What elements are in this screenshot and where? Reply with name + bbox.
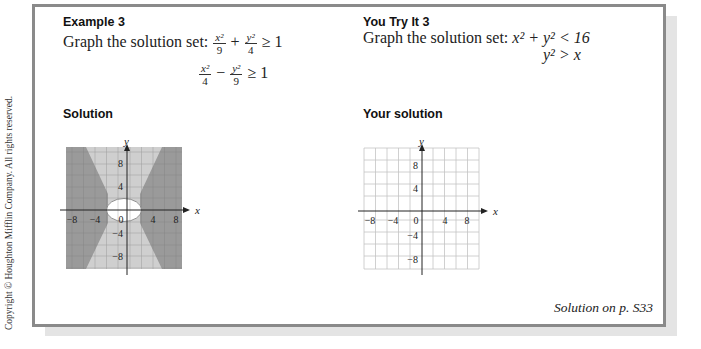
you-try-prompt: Graph the solution set: (363, 29, 508, 46)
solution-graph: x y −8 −4 0 4 8 8 4 −4 −8 (58, 139, 208, 279)
svg-text:−4: −4 (90, 214, 101, 225)
you-try-prompt-line: Graph the solution set: x² + y² < 16 (363, 29, 590, 47)
svg-text:8: 8 (118, 158, 123, 169)
example-prompt-line: Graph the solution set: x²9 + y²4 ≥ 1 (63, 31, 283, 56)
solution-label: Solution (63, 107, 113, 121)
svg-text:−8: −8 (365, 215, 376, 226)
fraction: x²9 (213, 31, 225, 56)
svg-text:y: y (418, 139, 424, 147)
example-heading: Example 3 (63, 15, 125, 29)
solution-reference: Solution on p. S33 (554, 300, 653, 316)
svg-text:4: 4 (413, 183, 418, 194)
svg-text:0: 0 (414, 215, 419, 226)
fraction: y²9 (230, 62, 242, 87)
svg-text:8: 8 (413, 160, 418, 171)
copyright-notice: Copyright © Houghton Mifflin Company. Al… (4, 90, 14, 330)
svg-text:8: 8 (465, 215, 470, 226)
example-inequality-2: x²4 − y²9 ≥ 1 (198, 62, 268, 87)
svg-text:4: 4 (118, 181, 123, 192)
svg-text:−8: −8 (112, 251, 123, 262)
svg-text:x: x (492, 205, 498, 217)
fraction: x²4 (199, 62, 211, 87)
svg-text:−8: −8 (67, 214, 78, 225)
svg-text:4: 4 (151, 214, 156, 225)
svg-text:y: y (123, 139, 129, 147)
you-try-heading: You Try It 3 (363, 15, 429, 29)
svg-text:0: 0 (119, 214, 124, 225)
you-try-inequality-1: x² + y² < 16 (512, 29, 589, 46)
svg-text:−4: −4 (388, 215, 399, 226)
svg-text:8: 8 (174, 214, 179, 225)
svg-text:4: 4 (443, 215, 448, 226)
svg-text:−4: −4 (407, 230, 418, 241)
svg-text:−8: −8 (407, 254, 418, 265)
example-box: Example 3 Graph the solution set: x²9 + … (32, 4, 666, 327)
you-try-inequality-2: y² > x (543, 46, 581, 64)
fraction: y²4 (245, 31, 257, 56)
example-prompt: Graph the solution set: (63, 33, 208, 50)
blank-graph[interactable]: x y −8 −4 0 4 8 8 4 −4 −8 (355, 139, 505, 279)
svg-text:x: x (194, 204, 200, 216)
svg-text:−4: −4 (112, 228, 123, 239)
your-solution-label: Your solution (363, 107, 443, 121)
